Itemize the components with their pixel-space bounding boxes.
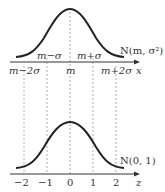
tick-m-plus-sigma: m+σ: [77, 50, 103, 61]
top-axis-var: x: [136, 65, 142, 76]
tick-neg2: −2: [14, 177, 29, 188]
tick-1: 1: [90, 177, 96, 188]
bottom-distribution-label: N(0, 1): [120, 155, 156, 166]
bottom-axis-var: z: [135, 177, 142, 188]
tick-m: m: [66, 65, 75, 76]
tick-neg1: −1: [38, 177, 53, 188]
tick-m-minus-sigma: m−σ: [37, 50, 63, 61]
tick-2: 2: [113, 177, 119, 188]
normal-distribution-diagram: N(m, σ²) x m−σ m+σ m−2σ m m+2σ N(0, 1) z…: [0, 0, 165, 192]
tick-m-minus-2sigma: m−2σ: [9, 65, 41, 76]
top-x-axis: [10, 60, 140, 65]
top-distribution-label: N(m, σ²): [120, 45, 163, 56]
tick-0: 0: [67, 177, 73, 188]
tick-m-plus-2sigma: m+2σ: [101, 65, 133, 76]
dashed-guides: [24, 8, 116, 174]
bottom-z-axis: [10, 172, 140, 177]
